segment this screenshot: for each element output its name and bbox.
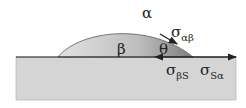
sigma-sa-label: σSα: [200, 63, 224, 81]
wetting-diagram: α β θ σαβ σβS σSα: [0, 0, 246, 108]
sigma-bs-label: σβS: [166, 63, 189, 81]
sigma-ab-label: σαβ: [171, 25, 194, 43]
theta-label: θ: [159, 42, 168, 57]
beta-label: β: [117, 42, 126, 57]
alpha-label: α: [142, 6, 152, 21]
